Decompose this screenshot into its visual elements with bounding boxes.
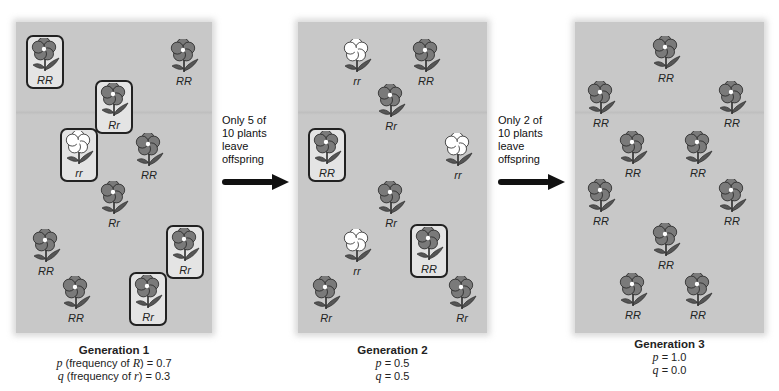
purple-flower-icon — [98, 181, 130, 217]
generation-1-caption: Generation 1 p (frequency of R) = 0.7 q … — [16, 344, 212, 383]
purple-flower-icon — [375, 84, 407, 120]
genotype-label: rr — [338, 75, 376, 87]
selected-plant: Rr — [166, 225, 204, 279]
plant: RR — [407, 38, 445, 88]
genotype-label: RR — [165, 75, 203, 87]
white-flower-icon — [63, 131, 95, 167]
transition-line: Only 2 of — [498, 114, 578, 127]
genotype-label: RR — [130, 169, 168, 181]
genotype-label: RR — [407, 75, 445, 87]
purple-flower-icon — [446, 276, 478, 312]
selected-plant: RR — [26, 35, 64, 89]
selected-plant: RR — [410, 224, 448, 278]
transition-line: 10 plants — [498, 127, 578, 140]
plant: Rr — [307, 275, 345, 325]
selected-plant: RR — [308, 128, 346, 182]
plant: RR — [647, 35, 685, 85]
genotype-label: Rr — [131, 311, 165, 323]
genotype-label: rr — [439, 169, 477, 181]
transition-line: leave — [222, 140, 302, 153]
plant: RR — [713, 178, 751, 228]
genotype-label: Rr — [307, 312, 345, 324]
transition-2-text: Only 2 of 10 plants leave offspring — [498, 114, 578, 166]
generation-title: Generation 2 — [298, 344, 487, 357]
plant: RR — [165, 38, 203, 88]
genotype-label: RR — [582, 117, 620, 129]
purple-flower-icon — [375, 181, 407, 217]
plant: Rr — [372, 180, 410, 230]
white-flower-icon — [341, 229, 373, 265]
purple-flower-icon — [617, 273, 649, 309]
genotype-label: Rr — [372, 120, 410, 132]
genotype-label: RR — [679, 309, 717, 321]
purple-flower-icon — [168, 39, 200, 75]
purple-flower-icon — [29, 38, 61, 74]
selected-plant: Rr — [95, 80, 133, 134]
purple-flower-icon — [585, 179, 617, 215]
purple-flower-icon — [98, 83, 130, 119]
purple-flower-icon — [169, 228, 201, 264]
plant: RR — [582, 178, 620, 228]
genotype-label: RR — [614, 309, 652, 321]
genotype-label: Rr — [95, 217, 133, 229]
genotype-label: RR — [310, 167, 344, 179]
genotype-label: Rr — [443, 312, 481, 324]
transition-line: offspring — [222, 153, 302, 166]
right-arrow-icon — [222, 174, 290, 190]
selected-plant: Rr — [129, 272, 167, 326]
purple-flower-icon — [133, 133, 165, 169]
genotype-label: Rr — [372, 217, 410, 229]
genotype-label: Rr — [168, 264, 202, 276]
plant: RR — [27, 228, 65, 278]
plant: Rr — [443, 275, 481, 325]
generation-3-caption: Generation 3 p = 1.0 q = 0.0 — [575, 338, 764, 377]
purple-flower-icon — [132, 275, 164, 311]
genotype-label: RR — [647, 259, 685, 271]
genotype-label: rr — [62, 167, 96, 179]
genotype-label: RR — [582, 215, 620, 227]
purple-flower-icon — [682, 273, 714, 309]
genotype-label: RR — [647, 72, 685, 84]
plant: RR — [713, 80, 751, 130]
purple-flower-icon — [682, 131, 714, 167]
plant: RR — [647, 222, 685, 272]
purple-flower-icon — [650, 36, 682, 72]
generation-title: Generation 1 — [16, 344, 212, 357]
white-flower-icon — [442, 133, 474, 169]
transition-1: Only 5 of 10 plants leave offspring — [222, 114, 302, 194]
purple-flower-icon — [716, 81, 748, 117]
plant: RR — [679, 130, 717, 180]
genotype-label: RR — [412, 263, 446, 275]
q-frequency: q (frequency of r) = 0.3 — [16, 370, 212, 383]
purple-flower-icon — [617, 131, 649, 167]
p-frequency: p (frequency of R) = 0.7 — [16, 357, 212, 370]
plant: rr — [338, 38, 376, 88]
plant: RR — [57, 275, 95, 325]
genotype-label: Rr — [97, 119, 131, 131]
purple-flower-icon — [60, 276, 92, 312]
plant: Rr — [372, 83, 410, 133]
selected-plant: rr — [60, 128, 98, 182]
transition-line: leave — [498, 140, 578, 153]
generation-2-caption: Generation 2 p = 0.5 q = 0.5 — [298, 344, 487, 383]
plant: RR — [679, 272, 717, 322]
q-frequency: q = 0.5 — [298, 370, 487, 383]
p-frequency: p = 0.5 — [298, 357, 487, 370]
plant: RR — [614, 130, 652, 180]
purple-flower-icon — [585, 81, 617, 117]
purple-flower-icon — [716, 179, 748, 215]
transition-2: Only 2 of 10 plants leave offspring — [498, 114, 578, 194]
transition-line: offspring — [498, 153, 578, 166]
transition-line: Only 5 of — [222, 114, 302, 127]
purple-flower-icon — [410, 39, 442, 75]
purple-flower-icon — [650, 223, 682, 259]
genotype-label: RR — [28, 74, 62, 86]
plant: RR — [130, 132, 168, 182]
transition-line: 10 plants — [222, 127, 302, 140]
plant: rr — [338, 228, 376, 278]
plant: RR — [582, 80, 620, 130]
purple-flower-icon — [30, 229, 62, 265]
genotype-label: RR — [713, 117, 751, 129]
generation-title: Generation 3 — [575, 338, 764, 351]
genotype-label: RR — [57, 312, 95, 324]
